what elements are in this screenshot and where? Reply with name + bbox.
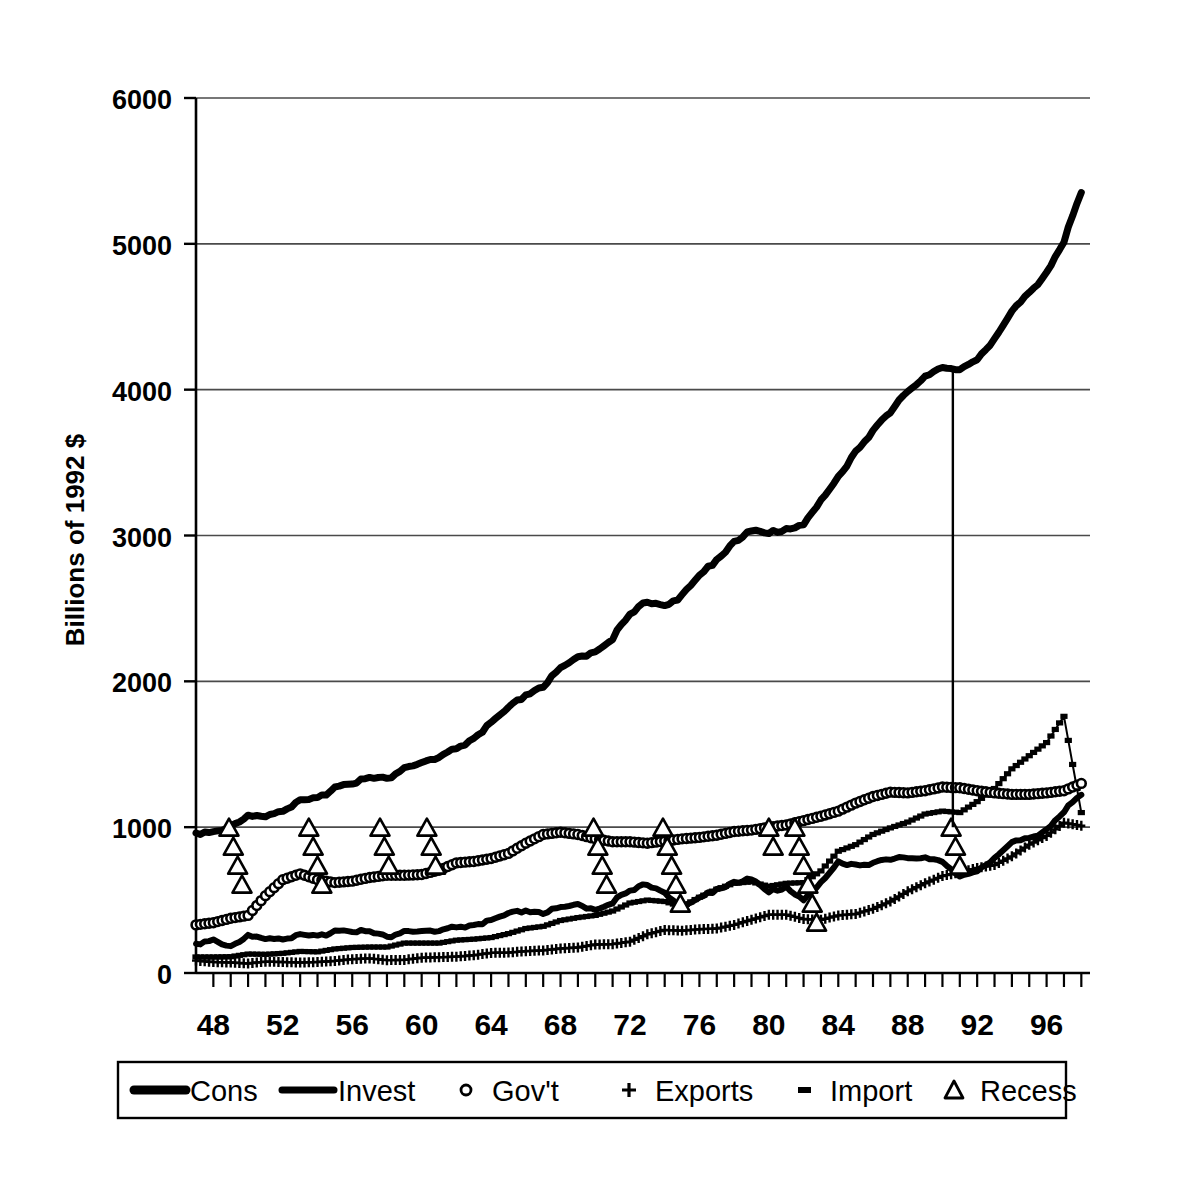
y-axis-title: Billions of 1992 $ [60,433,90,646]
economic-indicators-line-chart: Billions of 1992 $ 010002000300040005000… [0,0,1184,1186]
x-tick-label: 80 [752,1008,785,1041]
chart-legend: ConsInvestGov'tExportsImportRecess [118,1062,1077,1118]
x-tick-label: 48 [197,1008,230,1041]
y-tick-label: 0 [157,960,172,990]
x-tick-label: 88 [891,1008,924,1041]
x-tick-label: 84 [822,1008,856,1041]
legend-label: Gov't [492,1075,559,1107]
legend-marker-dash-icon [798,1087,811,1093]
legend-label: Recess [980,1075,1077,1107]
y-tick-label: 5000 [112,231,172,261]
y-tick-label: 3000 [112,523,172,553]
legend-label: Cons [190,1075,258,1107]
y-tick-label: 4000 [112,377,172,407]
x-tick-label: 60 [405,1008,438,1041]
x-tick-label: 76 [683,1008,716,1041]
legend-marker-circle-icon [461,1085,471,1095]
y-tick-label: 1000 [112,814,172,844]
chart-background [0,0,1184,1186]
x-tick-label: 68 [544,1008,577,1041]
x-tick-label: 92 [960,1008,993,1041]
x-tick-label: 52 [266,1008,299,1041]
legend-label: Invest [338,1075,415,1107]
x-tick-label: 56 [336,1008,369,1041]
x-tick-label: 96 [1030,1008,1063,1041]
x-tick-label: 72 [613,1008,646,1041]
chart-page: Billions of 1992 $ 010002000300040005000… [0,0,1184,1186]
x-tick-label: 64 [474,1008,508,1041]
legend-label: Import [830,1075,912,1107]
legend-box [118,1062,1066,1118]
y-tick-label: 6000 [112,85,172,115]
y-tick-label: 2000 [112,668,172,698]
legend-label: Exports [655,1075,753,1107]
